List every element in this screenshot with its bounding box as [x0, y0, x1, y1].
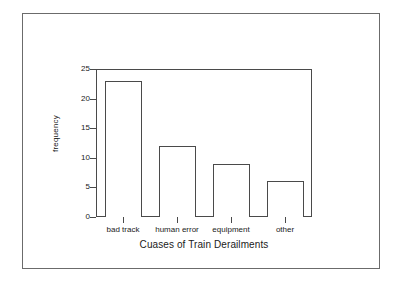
bar: [159, 146, 196, 217]
y-tick-mark: [90, 158, 96, 159]
bar-chart: 0510152025 frequency bad trackhuman erro…: [0, 0, 408, 295]
x-tick-label: other: [245, 225, 325, 234]
x-tick-mark: [231, 217, 232, 223]
bar: [267, 181, 304, 217]
x-tick-mark: [285, 217, 286, 223]
y-tick-label: 0: [50, 213, 90, 221]
y-tick-mark: [90, 187, 96, 188]
bar: [105, 81, 142, 217]
x-tick-mark: [177, 217, 178, 223]
y-tick-mark: [90, 217, 96, 218]
y-tick-mark: [90, 69, 96, 70]
y-tick-mark: [90, 99, 96, 100]
y-tick-label: 25: [50, 65, 90, 73]
bar: [213, 164, 250, 217]
x-tick-mark: [123, 217, 124, 223]
y-axis-title: frequency: [51, 74, 60, 194]
chart-screenshot: 0510152025 frequency bad trackhuman erro…: [0, 0, 408, 295]
y-tick-mark: [90, 128, 96, 129]
bars-container: [96, 69, 312, 217]
x-axis-title: Cuases of Train Derailments: [96, 239, 312, 250]
